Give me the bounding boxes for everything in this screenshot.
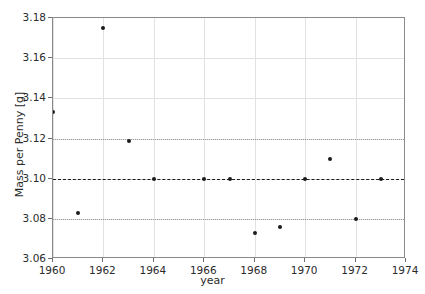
y-axis-tick-label: 3.16 xyxy=(4,51,46,63)
data-point xyxy=(101,26,105,30)
data-point xyxy=(228,177,232,181)
x-gridline xyxy=(103,18,104,257)
y-axis-tick xyxy=(48,97,52,98)
x-gridline xyxy=(305,18,306,257)
y-gridline xyxy=(53,58,404,59)
reference-line-upper-tolerance xyxy=(53,139,404,140)
x-gridline xyxy=(204,18,205,257)
data-point xyxy=(76,211,80,215)
data-point xyxy=(152,177,156,181)
x-axis-tick-label: 1960 xyxy=(39,264,66,276)
x-axis-tick xyxy=(355,258,356,262)
x-gridline xyxy=(255,18,256,257)
data-point xyxy=(328,157,332,161)
data-point xyxy=(202,177,206,181)
data-point xyxy=(127,139,131,143)
y-axis-tick xyxy=(48,178,52,179)
plot-inner xyxy=(53,18,404,257)
x-axis-tick xyxy=(405,258,406,262)
data-point xyxy=(303,177,307,181)
x-axis-tick-label: 1974 xyxy=(392,264,419,276)
y-axis-tick-label: 3.06 xyxy=(4,252,46,264)
x-gridline xyxy=(53,18,54,257)
x-axis-tick-label: 1962 xyxy=(89,264,116,276)
x-axis-tick xyxy=(102,258,103,262)
data-point xyxy=(253,231,257,235)
plot-area xyxy=(52,17,405,258)
y-axis-tick xyxy=(48,17,52,18)
reference-line-lower-tolerance xyxy=(53,219,404,220)
y-axis-tick-label: 3.18 xyxy=(4,11,46,23)
x-axis-tick-label: 1972 xyxy=(341,264,368,276)
x-axis-tick xyxy=(304,258,305,262)
y-axis-title: Mass per Penny [g] xyxy=(13,75,26,215)
x-axis-tick xyxy=(153,258,154,262)
data-point xyxy=(53,110,55,114)
data-point xyxy=(354,217,358,221)
y-gridline xyxy=(53,98,404,99)
data-point xyxy=(379,177,383,181)
x-axis-tick xyxy=(254,258,255,262)
x-axis-tick xyxy=(52,258,53,262)
y-axis-tick xyxy=(48,258,52,259)
x-gridline xyxy=(154,18,155,257)
x-axis-tick-label: 1966 xyxy=(190,264,217,276)
y-axis-tick xyxy=(48,138,52,139)
y-axis-tick xyxy=(48,57,52,58)
x-axis-tick xyxy=(203,258,204,262)
scatter-chart-figure: 3.063.083.103.123.143.163.18 Mass per Pe… xyxy=(0,0,425,294)
data-point xyxy=(278,225,282,229)
x-axis-tick-label: 1968 xyxy=(240,264,267,276)
y-axis-tick xyxy=(48,218,52,219)
x-axis-tick-label: 1970 xyxy=(291,264,318,276)
x-gridline xyxy=(356,18,357,257)
x-axis-tick-label: 1964 xyxy=(139,264,166,276)
